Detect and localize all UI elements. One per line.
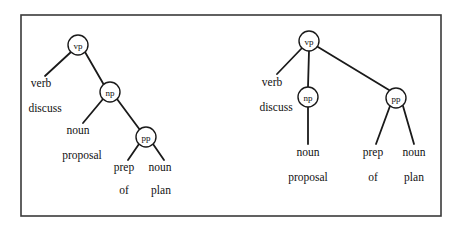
tree-edge-pp-to-prep bbox=[128, 144, 139, 160]
leaf-pos-noun: noun bbox=[297, 146, 320, 158]
tree-edge-np-to-pp bbox=[117, 99, 140, 130]
tree-edge-pp-to-noun2 bbox=[403, 106, 414, 144]
leaf-word-verb: discuss bbox=[259, 101, 293, 113]
node-label-vp: vp bbox=[305, 37, 315, 47]
node-label-np: np bbox=[106, 88, 116, 98]
tree-edge-vp-to-np bbox=[85, 52, 104, 85]
leaf-pos-noun2: noun bbox=[149, 161, 172, 173]
node-label-pp: pp bbox=[392, 94, 402, 104]
leaf-word-noun2: plan bbox=[404, 171, 424, 184]
tree-edge-vp-to-verb bbox=[277, 48, 302, 74]
tree-edge-vp-to-pp bbox=[318, 47, 389, 90]
node-label-pp: pp bbox=[142, 133, 152, 143]
leaf-word-prep: of bbox=[119, 184, 129, 196]
parse-tree-figure: vpnppp verbdiscussnounproposalprepofnoun… bbox=[0, 0, 461, 233]
right-parse-tree: vpnppp verbdiscussnounproposalprepofnoun… bbox=[259, 31, 425, 184]
right-tree-nodes: vpnppp bbox=[298, 31, 406, 108]
tree-node-vp: vp bbox=[68, 35, 88, 55]
leaf-pos-noun2: noun bbox=[403, 146, 426, 158]
tree-node-vp: vp bbox=[299, 31, 319, 51]
tree-node-np: np bbox=[298, 87, 318, 107]
leaf-pos-verb: verb bbox=[31, 77, 52, 89]
leaf-pos-verb: verb bbox=[262, 76, 283, 88]
tree-node-pp: pp bbox=[386, 88, 406, 108]
left-parse-tree: vpnppp verbdiscussnounproposalprepofnoun… bbox=[28, 35, 171, 197]
leaf-pos-prep: prep bbox=[114, 161, 135, 174]
node-label-vp: vp bbox=[74, 41, 84, 51]
tree-edge-pp-to-noun2 bbox=[153, 144, 164, 160]
leaf-pos-noun: noun bbox=[67, 124, 90, 136]
leaf-pos-prep: prep bbox=[363, 146, 384, 159]
leaf-word-prep: of bbox=[368, 171, 378, 183]
leaf-word-verb: discuss bbox=[28, 102, 62, 114]
tree-node-pp: pp bbox=[136, 127, 156, 147]
leaf-word-noun2: plan bbox=[151, 184, 171, 197]
tree-edge-np-to-noun bbox=[83, 99, 103, 123]
tree-edge-vp-to-verb bbox=[45, 52, 71, 76]
node-label-np: np bbox=[304, 93, 314, 103]
leaf-word-noun: proposal bbox=[288, 171, 328, 184]
tree-edge-vp-to-np bbox=[308, 51, 309, 87]
tree-node-np: np bbox=[100, 82, 120, 102]
tree-edge-pp-to-prep bbox=[376, 106, 390, 144]
leaf-word-noun: proposal bbox=[62, 149, 102, 162]
